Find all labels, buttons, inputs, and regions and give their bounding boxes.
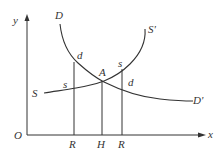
supply-right-point-label: s xyxy=(118,57,122,69)
demand-right-point-label: d xyxy=(128,76,134,88)
origin-label: O xyxy=(14,129,22,141)
demand-curve xyxy=(60,24,193,101)
supply-start-label: S xyxy=(32,87,38,99)
supply-end-label: S' xyxy=(148,23,157,35)
y-axis-arrow-icon xyxy=(25,14,30,21)
demand-left-point-label: d xyxy=(77,49,83,61)
x-axis-arrow-icon xyxy=(198,133,206,138)
x-tick-right-r: R xyxy=(117,138,125,150)
x-tick-left-r: R xyxy=(68,138,76,150)
y-axis-label: y xyxy=(12,14,18,26)
x-axis-label: x xyxy=(207,128,213,140)
demand-start-label: D xyxy=(54,9,63,21)
demand-end-label: D' xyxy=(192,94,204,106)
supply-demand-diagram: y x O D D' S S' A d s s d R H R xyxy=(0,0,223,156)
supply-left-point-label: s xyxy=(63,78,67,90)
equilibrium-label: A xyxy=(98,66,106,78)
x-tick-h: H xyxy=(96,138,106,150)
